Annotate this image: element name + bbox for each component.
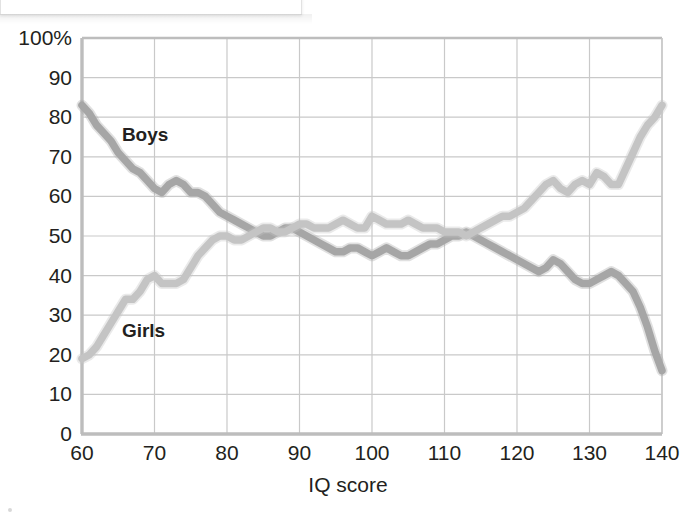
chart-gridlines — [82, 38, 662, 434]
x-tick-label-70: 70 — [125, 442, 185, 463]
y-tick-label-40: 40 — [0, 265, 72, 286]
x-tick-label-140: 140 — [632, 442, 692, 463]
y-tick-label-0: 0 — [0, 423, 72, 444]
x-tick-label-100: 100 — [342, 442, 402, 463]
series-label-boys: Boys — [122, 125, 168, 144]
iq-score-chart-figure: 0102030405060708090100% 6070809010011012… — [0, 0, 696, 521]
x-tick-label-80: 80 — [197, 442, 257, 463]
y-tick-label-10: 10 — [0, 383, 72, 404]
y-tick-label-20: 20 — [0, 344, 72, 365]
y-tick-label-60: 60 — [0, 185, 72, 206]
x-tick-label-120: 120 — [487, 442, 547, 463]
x-tick-label-90: 90 — [270, 442, 330, 463]
y-tick-label-70: 70 — [0, 146, 72, 167]
x-tick-label-60: 60 — [52, 442, 112, 463]
y-tick-label-100: 100% — [0, 27, 72, 48]
series-label-girls: Girls — [122, 321, 165, 340]
x-axis-title: IQ score — [248, 474, 448, 495]
x-tick-label-130: 130 — [560, 442, 620, 463]
y-tick-label-50: 50 — [0, 225, 72, 246]
y-tick-label-30: 30 — [0, 304, 72, 325]
x-tick-label-110: 110 — [415, 442, 475, 463]
y-tick-label-80: 80 — [0, 106, 72, 127]
y-tick-label-90: 90 — [0, 67, 72, 88]
